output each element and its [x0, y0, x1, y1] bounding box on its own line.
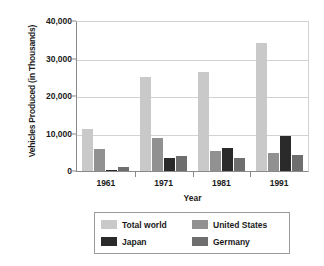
- y-axis-tick-label: 20,000: [12, 91, 72, 101]
- bar-1991-series-0: [256, 43, 267, 171]
- legend-swatch-icon: [101, 220, 117, 229]
- bar-1981-series-3: [234, 158, 245, 171]
- chart-legend: Total worldUnited StatesJapanGermany: [94, 212, 290, 254]
- bar-1981-series-2: [222, 148, 233, 171]
- bar-chart-figure: Vehicles Produced (in Thousands) 010,000…: [0, 0, 324, 266]
- x-axis-tick-mark: [135, 172, 136, 177]
- legend-label: Japan: [122, 237, 147, 247]
- bar-1961-series-3: [118, 167, 129, 172]
- bar-series-container: [77, 21, 308, 171]
- legend-item-united-states: United States: [192, 220, 283, 230]
- bar-1991-series-3: [292, 155, 303, 171]
- legend-item-japan: Japan: [101, 237, 192, 247]
- x-axis-tick-label-1991: 1991: [249, 178, 309, 188]
- bar-group-1981: [193, 21, 251, 171]
- bar-1971-series-1: [152, 138, 163, 171]
- y-axis-tick-label: 40,000: [12, 16, 72, 26]
- legend-label: United States: [213, 220, 267, 230]
- bar-1981-series-0: [198, 72, 209, 171]
- legend-swatch-icon: [192, 237, 208, 246]
- legend-swatch-icon: [192, 220, 208, 229]
- bar-1991-series-2: [280, 136, 291, 171]
- legend-item-total-world: Total world: [101, 220, 192, 230]
- bar-1961-series-1: [94, 149, 105, 171]
- legend-swatch-icon: [101, 237, 117, 246]
- bar-1971-series-2: [164, 158, 175, 172]
- legend-label: Germany: [213, 237, 250, 247]
- bar-1971-series-0: [140, 77, 151, 172]
- bar-1991-series-1: [268, 153, 279, 171]
- bar-1961-series-0: [82, 129, 93, 171]
- x-axis-tick-mark: [193, 172, 194, 177]
- bar-group-1961: [77, 21, 135, 171]
- bar-group-1971: [135, 21, 193, 171]
- y-axis-tick-label: 10,000: [12, 129, 72, 139]
- legend-label: Total world: [122, 220, 167, 230]
- legend-item-germany: Germany: [192, 237, 283, 247]
- x-axis-tick-label-1971: 1971: [134, 178, 194, 188]
- bar-1971-series-3: [176, 156, 187, 171]
- x-axis-tick-label-1961: 1961: [76, 178, 136, 188]
- bar-1981-series-1: [210, 151, 221, 171]
- y-axis-tick-label: 0: [12, 166, 72, 176]
- y-axis-tick-label: 30,000: [12, 54, 72, 64]
- x-axis-tick-label-1981: 1981: [191, 178, 251, 188]
- x-axis-title: Year: [76, 193, 309, 203]
- x-axis-tick-mark: [250, 172, 251, 177]
- bar-1961-series-2: [106, 170, 117, 171]
- bar-group-1991: [250, 21, 308, 171]
